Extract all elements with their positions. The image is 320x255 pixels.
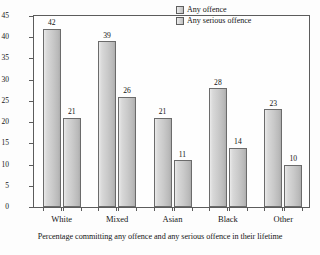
x-axis-tick-mark — [43, 207, 44, 211]
y-axis-tick-label: 25 — [0, 97, 9, 105]
x-axis-tick-mark — [98, 207, 99, 211]
y-axis-tick-label: 45 — [0, 12, 9, 20]
x-axis-tick-mark — [209, 207, 210, 211]
bar — [229, 148, 247, 207]
bar — [174, 160, 192, 207]
x-axis-tick-mark — [227, 207, 228, 211]
y-axis-tick-label: 20 — [0, 118, 9, 126]
x-axis-caption: Percentage committing any offence and an… — [0, 232, 320, 241]
chart-legend: Any offence Any serious offence — [172, 3, 255, 30]
x-axis-tick-mark — [284, 207, 285, 211]
bar-value-label: 10 — [284, 155, 302, 163]
y-axis-tick-label: 30 — [0, 76, 9, 84]
bar — [209, 88, 227, 207]
bar-value-label: 28 — [209, 79, 227, 87]
y-axis-tick-label: 35 — [0, 54, 9, 62]
bar-value-label: 21 — [63, 108, 81, 116]
x-axis-tick-mark — [247, 207, 248, 211]
x-axis-category-label: Black — [200, 214, 255, 224]
x-axis-tick-mark — [174, 207, 175, 211]
legend-item-any-offence: Any offence — [176, 5, 251, 15]
x-axis-tick-mark — [116, 207, 117, 211]
x-axis-tick-mark — [282, 207, 283, 211]
x-axis-category-label: Other — [256, 214, 311, 224]
x-axis-tick-mark — [81, 207, 82, 211]
x-axis-tick-mark — [172, 207, 173, 211]
legend-label: Any offence — [187, 6, 227, 14]
legend-label: Any serious offence — [187, 17, 251, 25]
bar-value-label: 26 — [118, 87, 136, 95]
y-axis-tick-label: 40 — [0, 33, 9, 41]
x-axis-category-label: Mixed — [89, 214, 144, 224]
y-axis-tick-label: 15 — [0, 139, 9, 147]
plot-area: 42213926211128142310 WhiteMixedAsianBlac… — [33, 15, 310, 208]
bar-value-label: 42 — [43, 19, 61, 27]
x-axis-tick-mark — [229, 207, 230, 211]
bar-value-label: 21 — [154, 108, 172, 116]
x-axis-tick-mark — [63, 207, 64, 211]
bar — [284, 165, 302, 207]
x-axis-category-label: Asian — [145, 214, 200, 224]
bar-value-label: 39 — [98, 32, 116, 40]
x-axis-tick-mark — [192, 207, 193, 211]
x-axis-tick-mark — [118, 207, 119, 211]
bar — [154, 118, 172, 207]
x-axis-tick-mark — [154, 207, 155, 211]
x-axis-tick-mark — [264, 207, 265, 211]
bar-value-label: 23 — [264, 100, 282, 108]
legend-item-any-serious-offence: Any serious offence — [176, 16, 251, 26]
y-axis-tick-label: 0 — [0, 203, 9, 211]
x-axis-tick-mark — [136, 207, 137, 211]
bar — [264, 109, 282, 207]
legend-swatch-icon — [176, 17, 184, 25]
bar — [43, 29, 61, 207]
legend-swatch-icon — [176, 6, 184, 14]
bar-chart-figure: Percentage 454035302520151050 4221392621… — [0, 0, 320, 255]
x-axis-category-label: White — [34, 214, 89, 224]
bar — [98, 41, 116, 207]
y-axis-tick-label: 5 — [0, 182, 9, 190]
x-axis-tick-mark — [302, 207, 303, 211]
bar — [118, 97, 136, 207]
y-axis-tick-label: 10 — [0, 161, 9, 169]
bar-value-label: 11 — [174, 151, 192, 159]
bar-value-label: 14 — [229, 138, 247, 146]
bar — [63, 118, 81, 207]
x-axis-tick-mark — [61, 207, 62, 211]
